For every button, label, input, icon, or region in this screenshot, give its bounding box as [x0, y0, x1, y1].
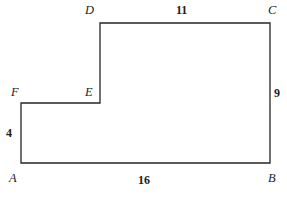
- vertex-label-f: F: [11, 86, 19, 99]
- dimension-label-fa-left: 4: [6, 127, 12, 139]
- vertex-label-a: A: [9, 172, 17, 185]
- vertex-label-b: B: [268, 172, 276, 185]
- geometry-figure: A B C D E F 11 9 16 4: [0, 0, 287, 200]
- dimension-label-ab-bottom: 16: [138, 174, 150, 186]
- polygon-shape: [0, 0, 287, 200]
- polygon-outline-path: [21, 23, 270, 163]
- vertex-label-d: D: [85, 4, 94, 17]
- vertex-label-c: C: [268, 4, 276, 17]
- dimension-label-cb-right: 9: [274, 87, 280, 99]
- dimension-label-dc-top: 11: [176, 4, 187, 16]
- vertex-label-e: E: [85, 86, 93, 99]
